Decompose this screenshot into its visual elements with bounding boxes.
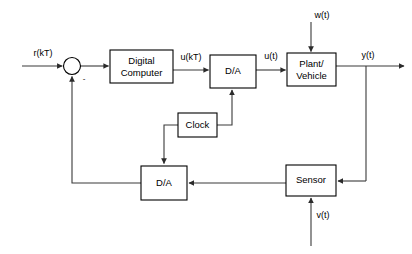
digital-computer-label-line1: Digital — [128, 55, 154, 66]
control-system-block-diagram: Digital Computer D/A Plant/ Vehicle Cloc… — [0, 0, 412, 254]
da-lower-label: D/A — [156, 177, 173, 188]
plant-vehicle-label-line2: Vehicle — [296, 70, 327, 81]
block-da-lower[interactable]: D/A — [141, 166, 187, 200]
block-digital-computer[interactable]: Digital Computer — [110, 50, 173, 83]
plant-vehicle-label-line1: Plant/ — [299, 58, 324, 69]
signal-label-computer-output: u(kT) — [181, 52, 202, 62]
wire-clock-to-da-lower — [164, 125, 178, 164]
signal-label-reference-input: r(kT) — [34, 48, 53, 58]
da-upper-label: D/A — [225, 65, 242, 76]
block-diagram-canvas: Digital Computer D/A Plant/ Vehicle Cloc… — [0, 0, 412, 254]
signal-label-plant-output: y(t) — [362, 50, 375, 60]
signal-label-disturbance-input: w(t) — [314, 10, 330, 20]
block-da-upper[interactable]: D/A — [210, 55, 256, 88]
wire-feedback-to-sum — [72, 77, 141, 184]
block-sensor[interactable]: Sensor — [286, 165, 336, 196]
block-clock[interactable]: Clock — [178, 113, 217, 137]
signal-label-da-output: u(t) — [264, 51, 278, 61]
summing-junction-negative-sign: - — [83, 74, 86, 83]
summing-junction[interactable]: - — [64, 58, 86, 84]
block-plant-vehicle[interactable]: Plant/ Vehicle — [287, 53, 336, 86]
summing-junction-circle[interactable] — [64, 58, 81, 75]
signal-label-noise-input: v(t) — [317, 210, 330, 220]
sensor-label: Sensor — [296, 174, 326, 185]
digital-computer-label-line2: Computer — [121, 67, 163, 78]
clock-label: Clock — [186, 119, 210, 130]
wire-clock-to-da-upper — [217, 90, 232, 125]
